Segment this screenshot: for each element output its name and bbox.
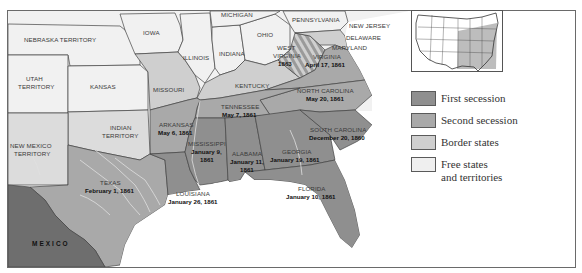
label-utah-1: UTAH bbox=[26, 75, 43, 82]
legend-item-free-states: Free states and territories bbox=[411, 157, 571, 187]
label-north-carolina-date: May 20, 1861 bbox=[306, 95, 344, 102]
label-florida: FLORIDA bbox=[298, 185, 326, 192]
label-alabama-date-2: 1861 bbox=[240, 166, 254, 173]
label-georgia: GEORGIA bbox=[282, 148, 312, 155]
label-indiana: INDIANA bbox=[219, 50, 246, 57]
label-pennsylvania: PENNSYLVANIA bbox=[292, 16, 341, 23]
label-utah-2: TERRITORY bbox=[18, 83, 54, 90]
legend-item-border-states: Border states bbox=[411, 135, 571, 157]
legend-label: Free states bbox=[441, 158, 502, 171]
legend-item-first-secession: First secession bbox=[411, 91, 571, 113]
label-mississippi: MISSISSIPPI bbox=[188, 140, 226, 147]
label-mississippi-date-1: January 9, bbox=[191, 148, 222, 155]
legend-swatch-second bbox=[411, 113, 436, 128]
label-indian-1: INDIAN bbox=[110, 124, 132, 131]
label-texas: TEXAS bbox=[100, 179, 121, 186]
legend-label: First secession bbox=[441, 92, 505, 105]
label-kansas: KANSAS bbox=[90, 83, 116, 90]
label-louisiana-date: January 26, 1861 bbox=[168, 198, 218, 205]
legend-swatch-border bbox=[411, 135, 436, 150]
label-virginia-date: April 17, 1861 bbox=[305, 61, 345, 68]
inset-usa-map bbox=[411, 10, 503, 72]
label-mexico: MEXICO bbox=[32, 240, 70, 247]
label-georgia-date: January 19, 1861 bbox=[270, 156, 320, 163]
label-indian-2: TERRITORY bbox=[102, 132, 138, 139]
legend-label: Border states bbox=[441, 136, 499, 149]
legend-swatch-first bbox=[411, 91, 436, 106]
label-delaware: DELAWARE bbox=[346, 34, 381, 41]
label-tennessee-date: May 7, 1861 bbox=[222, 111, 257, 118]
legend-swatch-free bbox=[411, 157, 436, 172]
label-florida-date: January 10, 1861 bbox=[286, 193, 336, 200]
label-arkansas: ARKANSAS bbox=[159, 121, 194, 128]
label-missouri: MISSOURI bbox=[153, 86, 185, 93]
label-nebraska: NEBRASKA TERRITORY bbox=[24, 36, 96, 43]
label-alabama: ALABAMA bbox=[232, 150, 263, 157]
label-west-virginia-date: 1863 bbox=[278, 60, 292, 67]
label-maryland: MARYLAND bbox=[332, 44, 368, 51]
label-west-virginia-1: WEST bbox=[277, 44, 295, 51]
label-texas-date: February 1, 1861 bbox=[85, 187, 134, 194]
label-illinois: ILLINOIS bbox=[183, 54, 209, 61]
label-new-mexico-1: NEW MEXICO bbox=[10, 142, 52, 149]
label-south-carolina-date: December 20, 1860 bbox=[309, 134, 365, 141]
label-tennessee: TENNESSEE bbox=[221, 103, 259, 110]
label-iowa: IOWA bbox=[143, 29, 160, 36]
legend-label: Second secession bbox=[441, 114, 518, 127]
map-legend: First secession Second secession Border … bbox=[411, 91, 571, 187]
label-mississippi-date-2: 1861 bbox=[200, 156, 214, 163]
legend-label-group: Free states and territories bbox=[441, 157, 502, 184]
label-louisiana: LOUISIANA bbox=[176, 190, 211, 197]
label-new-jersey: NEW JERSEY bbox=[349, 22, 390, 29]
label-new-mexico-2: TERRITORY bbox=[14, 150, 50, 157]
label-michigan: MICHIGAN bbox=[221, 11, 253, 18]
legend-label-line2: and territories bbox=[441, 171, 502, 184]
label-west-virginia-2: VIRGINIA bbox=[273, 52, 302, 59]
label-north-carolina: NORTH CAROLINA bbox=[297, 87, 354, 94]
label-alabama-date-1: January 11, bbox=[230, 158, 264, 165]
region-new-mexico bbox=[8, 113, 68, 185]
label-kentucky: KENTUCKY bbox=[235, 82, 270, 89]
label-south-carolina: SOUTH CAROLINA bbox=[310, 126, 367, 133]
legend-item-second-secession: Second secession bbox=[411, 113, 571, 135]
label-ohio: OHIO bbox=[257, 31, 273, 38]
label-arkansas-date: May 6, 1861 bbox=[158, 129, 193, 136]
label-virginia: VIRGINIA bbox=[313, 53, 342, 60]
